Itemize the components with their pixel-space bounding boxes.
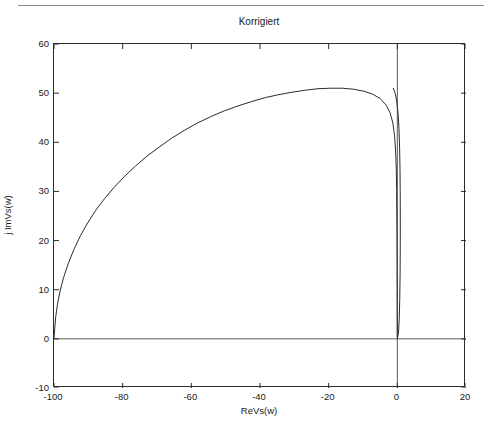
y-tick-label: 30 <box>17 185 49 196</box>
y-tick-label: 50 <box>17 87 49 98</box>
x-tick-label: -100 <box>28 391 78 402</box>
series-line <box>54 88 400 339</box>
zero-axis-lines <box>54 44 466 388</box>
x-tick-label: -80 <box>97 391 147 402</box>
figure-window: ··· ··· ····· ·· ···· ······· ··· ···· ·… <box>0 0 502 430</box>
x-tick-label: -40 <box>234 391 284 402</box>
plot-canvas <box>54 44 466 388</box>
y-tick-label: 0 <box>17 332 49 343</box>
y-tick-label: 20 <box>17 234 49 245</box>
x-axis-label: ReVs(w) <box>53 405 465 416</box>
chart-figure: Korrigiert -100102030405060 -100-80-60-4… <box>0 0 502 430</box>
plot-area <box>53 43 465 387</box>
axis-tick-marks <box>54 44 466 388</box>
x-tick-label: 0 <box>371 391 421 402</box>
chart-title: Korrigiert <box>53 16 465 27</box>
x-tick-label: -20 <box>303 391 353 402</box>
x-axis-tick-labels: -100-80-60-40-20020 <box>53 391 465 405</box>
x-tick-label: 20 <box>440 391 490 402</box>
y-axis-tick-labels: -100102030405060 <box>13 43 49 387</box>
x-tick-label: -60 <box>165 391 215 402</box>
y-axis-label-wrap: j ImVs(w) <box>0 43 14 387</box>
data-series-curves <box>54 88 400 339</box>
y-tick-label: 60 <box>17 38 49 49</box>
y-axis-label: j ImVs(w) <box>2 195 13 235</box>
y-tick-label: 10 <box>17 283 49 294</box>
y-tick-label: 40 <box>17 136 49 147</box>
